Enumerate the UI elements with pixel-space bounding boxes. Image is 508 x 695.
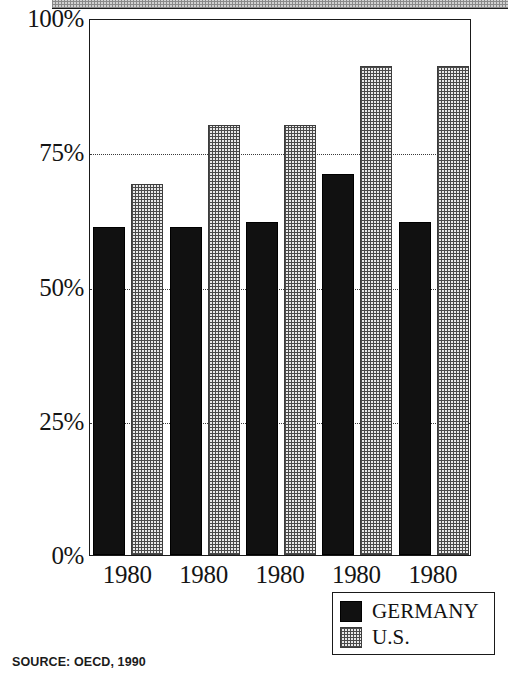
bars-layer <box>90 20 470 555</box>
bar-us-0 <box>131 184 163 555</box>
y-tick-label: 75% <box>0 140 84 165</box>
y-tick-label: 100% <box>0 6 84 31</box>
bar-germany-0 <box>93 227 125 555</box>
legend-item-germany: GERMANY <box>340 598 494 624</box>
legend-label: U.S. <box>372 626 410 648</box>
bar-us-1 <box>208 125 240 555</box>
x-tick-label: 1980 <box>165 560 241 590</box>
bar-germany-4 <box>399 222 431 555</box>
plot-frame <box>89 19 471 556</box>
bar-chart: 0%25%50%75%100% 19801980198019801980 <box>0 0 508 600</box>
legend-label: GERMANY <box>372 600 479 622</box>
bar-germany-2 <box>246 222 278 555</box>
y-tick-label: 25% <box>0 409 84 434</box>
bar-germany-3 <box>322 174 354 555</box>
y-axis-labels: 0%25%50%75%100% <box>0 0 84 600</box>
x-tick-label: 1980 <box>242 560 318 590</box>
x-tick-label: 1980 <box>395 560 471 590</box>
chart-legend: GERMANY U.S. <box>332 592 495 655</box>
y-tick-label: 50% <box>0 275 84 300</box>
x-axis-labels: 19801980198019801980 <box>89 560 471 596</box>
bar-germany-1 <box>170 227 202 555</box>
bar-us-3 <box>360 66 392 555</box>
bar-us-2 <box>284 125 316 555</box>
y-tick-label: 0% <box>0 543 84 568</box>
solid-black-swatch-icon <box>340 601 362 622</box>
dotted-grey-swatch-icon <box>340 627 362 648</box>
x-tick-label: 1980 <box>89 560 165 590</box>
legend-item-us: U.S. <box>340 624 494 650</box>
x-tick-label: 1980 <box>318 560 394 590</box>
source-note: SOURCE: OECD, 1990 <box>12 655 146 669</box>
bar-us-4 <box>437 66 469 555</box>
